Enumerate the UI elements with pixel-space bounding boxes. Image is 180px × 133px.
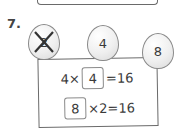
- equation-text: =16: [106, 70, 134, 85]
- balloon-label: 8: [154, 44, 162, 59]
- balloon[interactable]: 4: [87, 25, 119, 61]
- cross-out-icon: [29, 25, 59, 59]
- balloon-crossed[interactable]: 2: [28, 24, 60, 60]
- answer-box[interactable]: 8: [64, 97, 86, 119]
- equation-1: 4× 4 =16: [61, 66, 134, 89]
- balloon[interactable]: 8: [142, 33, 174, 69]
- answer-box[interactable]: 4: [82, 67, 104, 89]
- question-number: 7.: [7, 16, 21, 31]
- equation-2: 8 ×2=16: [62, 96, 135, 119]
- balloon-label: 4: [99, 36, 107, 51]
- equation-card: 4× 4 =16 8 ×2=16: [37, 57, 158, 128]
- previous-answer-box: [37, 0, 158, 5]
- equation-text: 4×: [61, 71, 80, 86]
- equation-text: ×2=16: [88, 100, 135, 116]
